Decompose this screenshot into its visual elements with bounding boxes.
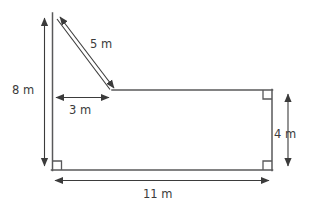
- dimension-label-11m: 11 m: [143, 187, 173, 201]
- dimension-label-4m: 4 m: [274, 127, 296, 141]
- dimension-line-5m-outer: [60, 17, 114, 88]
- top-right-right-angle-icon: [263, 90, 272, 99]
- figure-canvas: 8 m 5 m 3 m 4 m 11 m: [0, 0, 316, 206]
- dimension-label-5m: 5 m: [90, 37, 112, 51]
- dimension-line-5m-inner: [57, 19, 110, 90]
- dimension-vertical-left: 8 m: [12, 18, 45, 166]
- dimension-vertical-right: 4 m: [274, 94, 296, 166]
- dimension-diagonal: 5 m: [57, 17, 114, 90]
- dimension-label-3m: 3 m: [69, 103, 91, 117]
- dimension-label-8m: 8 m: [12, 83, 34, 97]
- dimension-horizontal-bottom: 11 m: [55, 181, 269, 201]
- geometry-figure: 8 m 5 m 3 m 4 m 11 m: [0, 0, 316, 206]
- bottom-left-right-angle-icon: [53, 161, 62, 170]
- polygon-outline: [52, 13, 273, 171]
- bottom-right-right-angle-icon: [263, 161, 272, 170]
- dimension-horizontal-top: 3 m: [56, 98, 109, 117]
